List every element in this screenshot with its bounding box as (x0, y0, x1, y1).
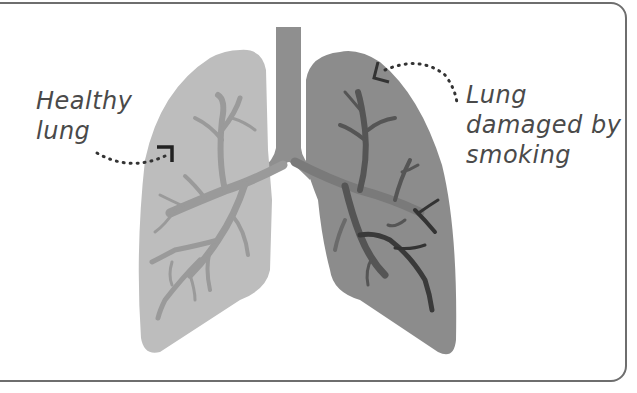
label-damaged-lung: Lung damaged by smoking (466, 80, 621, 170)
label-healthy-line2: lung (36, 116, 133, 146)
healthy-lung (139, 50, 283, 353)
label-damaged-line3: smoking (466, 140, 621, 170)
label-damaged-line2: damaged by (466, 110, 621, 140)
label-healthy-line1: Healthy (36, 86, 133, 116)
label-healthy-lung: Healthy lung (36, 86, 133, 146)
lungs-illustration (0, 0, 637, 393)
damaged-lung (295, 51, 456, 354)
label-damaged-line1: Lung (466, 80, 621, 110)
